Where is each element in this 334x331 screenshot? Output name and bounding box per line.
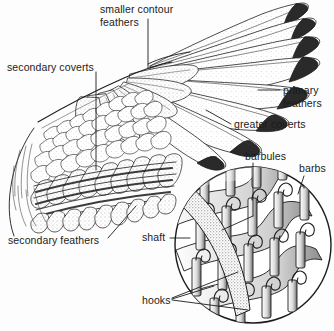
- label-barbs: barbs: [299, 162, 326, 175]
- label-smaller-contour-line1: smaller contour: [100, 3, 173, 15]
- label-hooks: hooks: [142, 294, 171, 307]
- label-greater-coverts: greater coverts: [234, 118, 306, 131]
- label-primary-feathers-line1: primary: [283, 84, 319, 96]
- label-barbules: barbules: [245, 150, 286, 163]
- label-smaller-contour-feathers: smaller contourfeathers: [100, 3, 173, 28]
- feather-anatomy-figure: smaller contourfeathers secondary covert…: [0, 0, 334, 331]
- label-primary-feathers-line2: feathers: [283, 97, 322, 109]
- label-shaft: shaft: [142, 231, 165, 244]
- label-secondary-feathers: secondary feathers: [8, 234, 99, 247]
- wing-diagram-illustration: [0, 0, 334, 331]
- label-primary-feathers: primaryfeathers: [283, 84, 322, 109]
- label-smaller-contour-line2: feathers: [100, 16, 139, 28]
- label-secondary-coverts: secondary coverts: [7, 61, 94, 74]
